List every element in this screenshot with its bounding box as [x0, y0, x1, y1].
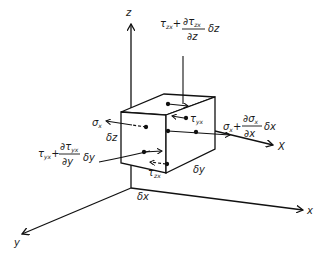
x-axis — [131, 188, 303, 210]
dx-label: δx — [137, 191, 149, 202]
X-reference-label: X — [277, 141, 286, 152]
svg-text:σx+: σx+ — [223, 121, 241, 133]
y-axis-label: y — [13, 237, 21, 248]
svg-text:δx: δx — [264, 121, 276, 132]
svg-text:δy: δy — [83, 152, 96, 163]
x-axis-label: x — [306, 205, 313, 216]
svg-text:τzx+: τzx+ — [160, 18, 181, 30]
svg-text:∂τzx: ∂τzx — [183, 16, 201, 28]
svg-text:∂σx: ∂σx — [243, 113, 259, 125]
svg-text:∂x: ∂x — [244, 128, 255, 139]
z-axis-label: z — [125, 7, 132, 18]
cube-left-face — [121, 112, 166, 173]
dz-label: δz — [106, 132, 118, 143]
svg-text:∂y: ∂y — [62, 156, 74, 167]
stress-element-diagram: z x y X δx δy δz σx τyx τzx τzx+ ∂τzx ∂z… — [0, 0, 319, 253]
svg-text:δz: δz — [208, 23, 220, 34]
left-stress-expression: τyx+ ∂τyx ∂y δy — [38, 141, 96, 167]
top-stress-expression: τzx+ ∂τzx ∂z δz — [160, 16, 220, 42]
svg-text:τyx+: τyx+ — [38, 148, 60, 161]
sigma-x-left-label: σx — [92, 117, 102, 129]
svg-text:∂τyx: ∂τyx — [60, 141, 79, 154]
y-axis — [22, 188, 131, 234]
dy-label: δy — [193, 164, 206, 175]
svg-text:∂z: ∂z — [187, 31, 198, 42]
